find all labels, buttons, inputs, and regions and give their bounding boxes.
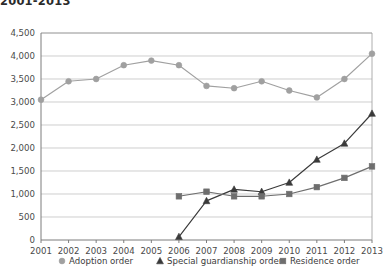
data-point-marker bbox=[369, 164, 375, 170]
data-point-marker bbox=[121, 62, 127, 68]
legend-marker-triangle-icon bbox=[157, 257, 164, 263]
x-axis-tick-label: 2012 bbox=[333, 246, 355, 256]
legend-label: Residence order bbox=[290, 256, 360, 266]
y-axis-tick-label: 1,500 bbox=[10, 166, 35, 176]
series-adoption-order bbox=[38, 51, 375, 103]
x-axis-tick-label: 2009 bbox=[251, 246, 273, 256]
x-axis-tick-label: 2003 bbox=[85, 246, 107, 256]
series-line bbox=[41, 54, 372, 100]
data-point-marker bbox=[313, 156, 320, 162]
data-point-marker bbox=[369, 110, 376, 116]
data-point-marker bbox=[259, 194, 265, 200]
legend-item-adoption-order[interactable]: Adoption order bbox=[59, 256, 133, 266]
data-point-marker bbox=[286, 191, 292, 197]
legend-item-residence-order[interactable]: Residence order bbox=[280, 256, 360, 266]
data-point-marker bbox=[66, 78, 72, 84]
x-axis-tick-label: 2006 bbox=[168, 246, 190, 256]
data-point-marker bbox=[176, 62, 182, 68]
y-axis-tick-label: 3,000 bbox=[10, 97, 35, 107]
x-axis-tick-label: 2008 bbox=[223, 246, 245, 256]
y-axis-tick-label: 2,000 bbox=[10, 143, 35, 153]
data-point-marker bbox=[93, 76, 99, 82]
y-axis-tick-label: 3,500 bbox=[10, 74, 35, 84]
data-point-marker bbox=[204, 189, 210, 195]
legend-marker-circle-icon bbox=[59, 258, 65, 264]
x-axis-tick-label: 2005 bbox=[140, 246, 162, 256]
y-axis-tick-label: 0 bbox=[30, 235, 35, 245]
y-axis-tick-label: 2,500 bbox=[10, 120, 35, 130]
data-point-marker bbox=[314, 184, 320, 190]
x-axis-tick-label: 2002 bbox=[58, 246, 80, 256]
data-point-marker bbox=[148, 58, 154, 64]
legend-item-special-guardianship-order[interactable]: Special guardianship order bbox=[157, 256, 283, 266]
x-axis-tick-label: 2010 bbox=[278, 246, 300, 256]
data-point-marker bbox=[231, 186, 238, 192]
x-axis-tick-label: 2013 bbox=[361, 246, 383, 256]
y-axis-tick-label: 4,000 bbox=[10, 51, 35, 61]
chart-container: 05001,0001,5002,0002,5003,0003,5004,0004… bbox=[0, 0, 384, 273]
data-point-marker bbox=[342, 76, 348, 82]
data-point-marker bbox=[38, 97, 44, 103]
data-point-marker bbox=[176, 194, 182, 200]
series-special-guardianship-order bbox=[176, 110, 376, 240]
data-point-marker bbox=[259, 78, 265, 84]
data-point-marker bbox=[231, 194, 237, 200]
x-axis-tick-label: 2004 bbox=[113, 246, 135, 256]
y-axis-tick-label: 500 bbox=[19, 212, 35, 222]
legend-marker-square-icon bbox=[280, 258, 286, 264]
data-point-marker bbox=[369, 51, 375, 57]
data-point-marker bbox=[286, 88, 292, 94]
data-point-marker bbox=[231, 85, 237, 91]
data-point-marker bbox=[314, 95, 320, 101]
y-axis-tick-label: 4,500 bbox=[10, 28, 35, 38]
x-axis-tick-label: 2011 bbox=[306, 246, 328, 256]
x-axis-tick-label: 2001 bbox=[30, 246, 52, 256]
data-point-marker bbox=[204, 83, 210, 89]
legend-label: Adoption order bbox=[69, 256, 133, 266]
data-point-marker bbox=[342, 175, 348, 181]
y-axis-tick-label: 1,000 bbox=[10, 189, 35, 199]
x-axis-tick-label: 2007 bbox=[196, 246, 218, 256]
legend-label: Special guardianship order bbox=[167, 256, 283, 266]
line-chart: 05001,0001,5002,0002,5003,0003,5004,0004… bbox=[0, 0, 384, 273]
